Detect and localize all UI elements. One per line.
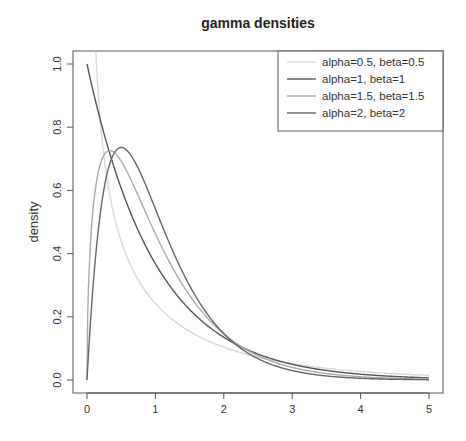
legend-label: alpha=0.5, beta=0.5	[322, 56, 424, 68]
legend-label: alpha=1, beta=1	[322, 73, 405, 85]
y-axis: 0.00.20.40.60.81.0	[51, 56, 73, 387]
x-axis: 012345	[84, 393, 432, 415]
x-tick-label: 1	[152, 403, 158, 415]
x-tick-label: 0	[84, 403, 90, 415]
legend: alpha=0.5, beta=0.5alpha=1, beta=1alpha=…	[278, 51, 443, 131]
y-tick-label: 0.4	[51, 246, 63, 261]
legend-label: alpha=2, beta=2	[322, 107, 405, 119]
legend-label: alpha=1.5, beta=1.5	[322, 90, 424, 102]
curve-series-4	[87, 148, 429, 381]
chart-title: gamma densities	[201, 15, 315, 31]
y-tick-label: 0.6	[51, 183, 63, 198]
y-tick-label: 1.0	[51, 56, 63, 71]
y-tick-label: 0.2	[51, 309, 63, 324]
y-axis-label: density	[26, 201, 41, 243]
y-tick-label: 0.0	[51, 372, 63, 387]
x-tick-label: 4	[358, 403, 364, 415]
x-tick-label: 5	[426, 403, 432, 415]
x-tick-label: 3	[289, 403, 295, 415]
y-tick-label: 0.8	[51, 120, 63, 135]
x-tick-label: 2	[221, 403, 227, 415]
curve-series-3	[87, 151, 429, 380]
gamma-density-chart: gamma densities 012345 0.00.20.40.60.81.…	[0, 0, 466, 441]
